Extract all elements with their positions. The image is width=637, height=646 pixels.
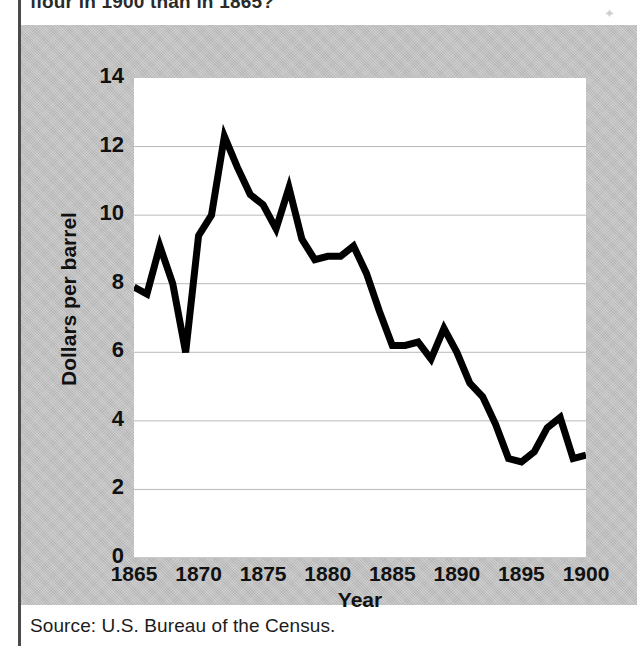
source-note: Source: U.S. Bureau of the Census. (30, 615, 335, 637)
x-tick-label: 1870 (164, 562, 234, 586)
x-tick-label: 1900 (551, 562, 621, 586)
x-tick-label: 1890 (422, 562, 492, 586)
gridlines (134, 147, 586, 558)
plot-area (134, 78, 586, 558)
x-tick-label: 1865 (99, 562, 169, 586)
data-series-line (134, 136, 586, 462)
y-tick-label: 12 (78, 132, 124, 158)
y-tick-label: 8 (78, 269, 124, 295)
question-text: flour in 1900 than in 1865? (30, 0, 450, 13)
x-tick-label: 1895 (486, 562, 556, 586)
x-tick-label: 1880 (293, 562, 363, 586)
y-tick-label: 2 (78, 474, 124, 500)
y-axis-title: Dollars per barrel (57, 159, 81, 439)
y-tick-label: 14 (78, 63, 124, 89)
y-tick-label: 10 (78, 200, 124, 226)
y-tick-label: 4 (78, 406, 124, 432)
x-tick-label: 1885 (357, 562, 427, 586)
y-tick-label: 6 (78, 337, 124, 363)
figure-page: flour in 1900 than in 1865? ✦ 0246810121… (0, 0, 637, 646)
line-chart-svg (134, 78, 586, 558)
x-tick-label: 1875 (228, 562, 298, 586)
chart-panel: 02468101214 1865187018751880188518901895… (21, 25, 637, 605)
x-axis-title: Year (134, 588, 586, 612)
corner-mark-icon: ✦ (604, 6, 615, 21)
